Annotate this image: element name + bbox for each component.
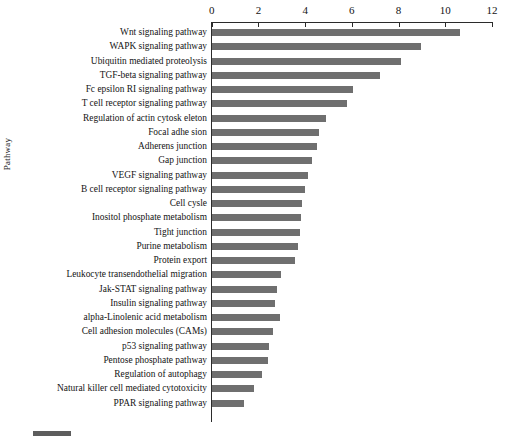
y-axis-category-label: Focal adhe sion: [148, 126, 207, 140]
bar: [212, 314, 280, 321]
bar: [212, 357, 268, 364]
x-axis-tick-label: 6: [349, 4, 355, 16]
chart-row: Pentose phosphate pathway: [0, 354, 513, 368]
y-axis-category-label: Regulation of actin cytosk eleton: [83, 112, 207, 126]
bar: [212, 200, 302, 207]
bar: [212, 143, 317, 150]
y-axis-category-label: Purine metabolism: [136, 240, 207, 254]
bar: [212, 115, 326, 122]
chart-row: Regulation of autophagy: [0, 368, 513, 382]
chart-row: Cell cysle: [0, 197, 513, 211]
chart-row: p53 signaling pathway: [0, 340, 513, 354]
y-axis-category-label: Tight junction: [154, 226, 207, 240]
chart-row: Insulin signaling pathway: [0, 297, 513, 311]
bar: [212, 100, 347, 107]
y-axis-category-label: PPAR signaling pathway: [114, 397, 207, 411]
bar: [212, 186, 305, 193]
legend-color-swatch: [33, 431, 71, 436]
bar: [212, 300, 275, 307]
chart-row: T cell receptor signaling pathway: [0, 97, 513, 111]
y-axis-category-label: p53 signaling pathway: [122, 340, 207, 354]
bar: [212, 400, 244, 407]
chart-row: TGF-beta signaling pathway: [0, 69, 513, 83]
y-axis-category-label: VEGF signaling pathway: [112, 169, 207, 183]
y-axis-category-label: Natural killer cell mediated cytotoxicit…: [57, 382, 207, 396]
y-axis-category-label: Cell adhesion molecules (CAMs): [82, 325, 207, 339]
bar: [212, 371, 262, 378]
x-axis-tick-label: 10: [440, 4, 451, 16]
y-axis-category-label: T cell receptor signaling pathway: [82, 97, 207, 111]
x-axis-tick-label: 0: [209, 4, 215, 16]
y-axis-category-label: TGF-beta signaling pathway: [100, 69, 207, 83]
bar: [212, 257, 295, 264]
chart-row: Tight junction: [0, 226, 513, 240]
y-axis-category-label: B cell receptor signaling pathway: [81, 183, 207, 197]
bar: [212, 243, 298, 250]
chart-row: Jak-STAT signaling pathway: [0, 283, 513, 297]
bar: [212, 43, 421, 50]
bar: [212, 58, 401, 65]
chart-row: VEGF signaling pathway: [0, 169, 513, 183]
chart-row: Adherens junction: [0, 140, 513, 154]
y-axis-category-label: Gap junction: [158, 154, 207, 168]
y-axis-category-label: Regulation of autophagy: [114, 368, 207, 382]
bar: [212, 385, 254, 392]
bar: [212, 72, 380, 79]
bar: [212, 86, 353, 93]
y-axis-category-label: Wnt signaling pathway: [120, 26, 207, 40]
bar: [212, 157, 312, 164]
bar: [212, 229, 300, 236]
chart-row: Regulation of actin cytosk eleton: [0, 112, 513, 126]
y-axis-category-label: Inositol phosphate metabolism: [92, 211, 207, 225]
y-axis-category-label: Ubiquitin mediated proteolysis: [91, 55, 207, 69]
chart-row: Focal adhe sion: [0, 126, 513, 140]
bar: [212, 214, 301, 221]
bar: [212, 286, 277, 293]
x-axis-tick-label: 2: [256, 4, 262, 16]
chart-row: Protein export: [0, 254, 513, 268]
chart-row: WAPK signaling pathway: [0, 40, 513, 54]
bar: [212, 172, 308, 179]
y-axis-category-label: Leukocyte transendothelial migration: [66, 268, 207, 282]
y-axis-category-label: Fc epsilon RI signaling pathway: [86, 83, 207, 97]
chart-row: Fc epsilon RI signaling pathway: [0, 83, 513, 97]
bar: [212, 271, 281, 278]
x-axis-tick-label: 8: [396, 4, 402, 16]
bar: [212, 129, 319, 136]
y-axis-category-label: Cell cysle: [170, 197, 207, 211]
y-axis-category-label: Adherens junction: [138, 140, 207, 154]
x-axis-tick-label: 4: [302, 4, 308, 16]
chart-row: Wnt signaling pathway: [0, 26, 513, 40]
x-axis-tick-label: 12: [487, 4, 498, 16]
bar-chart: Pathway 024681012 Wnt signaling pathwayW…: [0, 0, 513, 441]
bar: [212, 29, 460, 36]
chart-row: Ubiquitin mediated proteolysis: [0, 55, 513, 69]
y-axis-category-label: alpha-Linolenic acid metabolism: [84, 311, 207, 325]
y-axis-category-label: Insulin signaling pathway: [110, 297, 207, 311]
chart-row: Gap junction: [0, 154, 513, 168]
chart-row: PPAR signaling pathway: [0, 397, 513, 411]
chart-row: Purine metabolism: [0, 240, 513, 254]
chart-row: Inositol phosphate metabolism: [0, 211, 513, 225]
chart-row: Leukocyte transendothelial migration: [0, 268, 513, 282]
bar: [212, 328, 273, 335]
chart-row: B cell receptor signaling pathway: [0, 183, 513, 197]
y-axis-category-label: Pentose phosphate pathway: [103, 354, 207, 368]
y-axis-category-label: Jak-STAT signaling pathway: [99, 283, 207, 297]
bar: [212, 343, 269, 350]
chart-row: alpha-Linolenic acid metabolism: [0, 311, 513, 325]
y-axis-category-label: WAPK signaling pathway: [110, 40, 207, 54]
y-axis-category-label: Protein export: [154, 254, 207, 268]
chart-row: Natural killer cell mediated cytotoxicit…: [0, 382, 513, 396]
chart-row: Cell adhesion molecules (CAMs): [0, 325, 513, 339]
